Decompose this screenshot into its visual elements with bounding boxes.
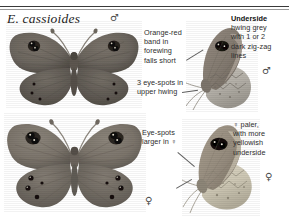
male-marker-underside: ♂ [262,66,271,76]
field-guide-page: E. cassioides [0,0,289,217]
forewing-eyespots-left [28,41,40,52]
annotation-line: band in [144,37,192,46]
annotation-line: Eye-spots [142,128,194,137]
annotation-underside-hwing: Underside hwing grey with 1 or 2 dark zi… [231,14,289,60]
annotation-line: underside [233,148,285,157]
underside-forewing-eyespots [210,138,227,150]
annotation-line: yellowish [233,138,285,147]
annotation-line: forewing [144,46,192,55]
annotation-line: 3 eye-spots in [137,78,197,87]
annotation-line: lines [231,51,289,60]
annotation-female-paler: ♀ paler, with more yellowish underside [233,120,285,157]
annotation-line: with more [233,129,285,138]
forewing-eyespots-left [25,132,40,145]
header-rule-bottom [0,9,289,10]
annotation-three-eye-spots: 3 eye-spots in upper hwing [137,78,197,96]
male-upperside-specimen [6,20,142,108]
annotation-line: Orange-red [144,28,192,37]
header-rule-top [0,6,289,7]
male-marker-upperside: ♂ [110,13,119,23]
annotation-line: falls short [144,56,192,65]
annotation-line-bold: Underside [231,14,289,23]
female-upperside-specimen [4,112,146,212]
annotation-line: hwing grey [231,23,289,32]
annotation-line: dark zig-zag [231,42,289,51]
underside-forewing-eyespots [215,41,229,51]
annotation-line: with 1 or 2 [231,32,289,41]
annotation-line: upper hwing [137,87,197,96]
annotation-line: ♀ paler, [233,120,285,129]
annotation-eye-spots-larger: Eye-spots larger in ♀ [142,128,194,146]
annotation-bold-prefix: Underside [231,14,267,23]
annotation-orange-red-band: Orange-red band in forewing falls short [144,28,192,65]
forewing-eyespots-right [108,132,123,145]
annotation-line: larger in ♀ [142,137,194,146]
forewing-eyespots-right [108,41,120,52]
female-marker-upperside: ♀ [145,196,152,206]
female-marker-underside: ♀ [265,172,272,182]
